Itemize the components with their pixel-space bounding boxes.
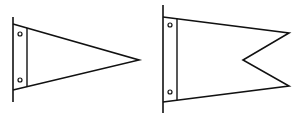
grommet-hole-icon xyxy=(18,78,22,82)
swallowtail-flag xyxy=(163,5,289,113)
grommet-hole-icon xyxy=(168,90,172,94)
grommet-hole-icon xyxy=(168,23,172,27)
flag-outline xyxy=(163,17,289,102)
grommet-hole-icon xyxy=(18,32,22,36)
flag-outline xyxy=(13,24,139,90)
flags-diagram xyxy=(0,0,300,120)
flags-svg xyxy=(0,0,300,120)
pennant-flag xyxy=(13,17,139,102)
